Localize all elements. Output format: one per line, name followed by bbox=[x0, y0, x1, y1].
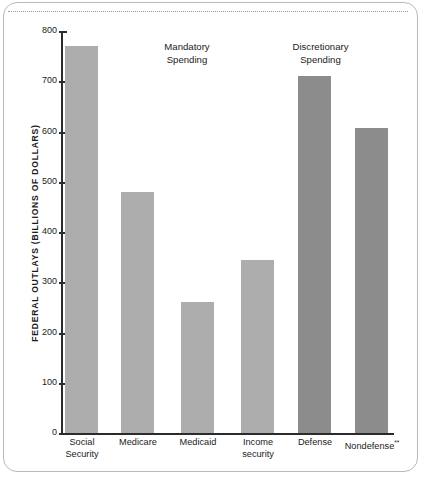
x-label-social-security-line1: Social bbox=[52, 437, 112, 449]
bar-medicare[interactable] bbox=[121, 192, 154, 433]
x-label-medicare: Medicare bbox=[108, 437, 168, 449]
y-tick-label-0: 0 bbox=[52, 427, 57, 437]
y-tick-label-800: 800 bbox=[42, 25, 57, 35]
y-tick-label-100: 100 bbox=[42, 377, 57, 387]
bar-medicaid[interactable] bbox=[181, 302, 214, 433]
annotation-mandatory-spending: Mandatory Spending bbox=[132, 41, 242, 66]
x-label-social-security-line2: Security bbox=[52, 449, 112, 461]
x-label-social-security: Social Security bbox=[52, 437, 112, 460]
plot-area: FEDERAL OUTLAYS (BILLIONS OF DOLLARS) 80… bbox=[0, 0, 424, 479]
x-axis-line bbox=[61, 433, 394, 435]
y-tick-label-300: 300 bbox=[42, 276, 57, 286]
y-tick-label-200: 200 bbox=[42, 327, 57, 337]
y-tick-label-400: 400 bbox=[42, 226, 57, 236]
x-label-income-security-line1: Income bbox=[228, 437, 288, 449]
chart-figure: FEDERAL OUTLAYS (BILLIONS OF DOLLARS) 80… bbox=[0, 0, 424, 479]
y-tick-label-500: 500 bbox=[42, 176, 57, 186]
x-label-defense-line1: Defense bbox=[285, 437, 345, 449]
bar-nondefense[interactable] bbox=[355, 128, 388, 434]
y-tick-mark-800 bbox=[59, 31, 67, 33]
x-label-medicaid-line1: Medicaid bbox=[168, 437, 228, 449]
x-label-medicaid: Medicaid bbox=[168, 437, 228, 449]
x-label-income-security: Income security bbox=[228, 437, 288, 460]
x-label-medicare-line1: Medicare bbox=[108, 437, 168, 449]
bar-defense[interactable] bbox=[298, 76, 331, 433]
x-label-nondefense-footnote-marker: ** bbox=[394, 439, 399, 446]
x-label-nondefense: Nondefense** bbox=[337, 437, 407, 453]
annotation-mandatory-line2: Spending bbox=[132, 54, 242, 67]
x-label-nondefense-text: Nondefense bbox=[345, 441, 395, 451]
y-tick-label-700: 700 bbox=[42, 75, 57, 85]
x-label-income-security-line2: security bbox=[228, 449, 288, 461]
annotation-discretionary-line2: Spending bbox=[258, 54, 383, 67]
annotation-mandatory-line1: Mandatory bbox=[132, 41, 242, 54]
annotation-discretionary-spending: Discretionary Spending bbox=[258, 41, 383, 66]
y-tick-label-600: 600 bbox=[42, 126, 57, 136]
x-label-defense: Defense bbox=[285, 437, 345, 449]
y-tick-mark-0 bbox=[59, 433, 67, 435]
bar-social-security[interactable] bbox=[65, 46, 98, 433]
y-axis-title: FEDERAL OUTLAYS (BILLIONS OF DOLLARS) bbox=[30, 68, 40, 398]
annotation-discretionary-line1: Discretionary bbox=[258, 41, 383, 54]
bar-income-security[interactable] bbox=[241, 260, 274, 433]
x-label-nondefense-line1: Nondefense** bbox=[337, 437, 407, 453]
